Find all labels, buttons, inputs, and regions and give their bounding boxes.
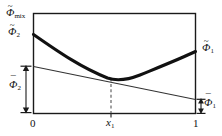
axis-label-phi-mix-subscript: mix [14, 12, 25, 20]
xtick-label-1: 1 [193, 118, 199, 129]
plot-canvas [0, 0, 222, 136]
xtick-label-0: 0 [30, 118, 36, 129]
axis-label-phi-mix: ~Φmix [6, 7, 25, 20]
xtick-label-x1-subscript: 1 [111, 122, 115, 130]
endpoint-label-phi-tilde-2: ~Φ2 [8, 26, 20, 39]
endpoint-label-phi-tilde-1: ~Φ1 [202, 42, 214, 55]
figure-container: ~Φmix ~Φ2 ¯Φ2 ~Φ1 ¯Φ1 0 x1 1 [0, 0, 222, 136]
endpoint-label-phi-tilde-2-subscript: 2 [16, 31, 20, 39]
xtick-label-x1: x1 [106, 117, 114, 130]
annotation-label-phi-bar-1-subscript: 1 [212, 102, 216, 110]
phi-bar-2-arrow [21, 65, 32, 114]
annotation-label-phi-bar-1: ¯Φ1 [204, 97, 216, 110]
endpoint-label-phi-tilde-1-subscript: 1 [210, 47, 214, 55]
annotation-label-phi-bar-2-subscript: 2 [17, 84, 21, 92]
annotation-label-phi-bar-2: ¯Φ2 [9, 79, 21, 92]
